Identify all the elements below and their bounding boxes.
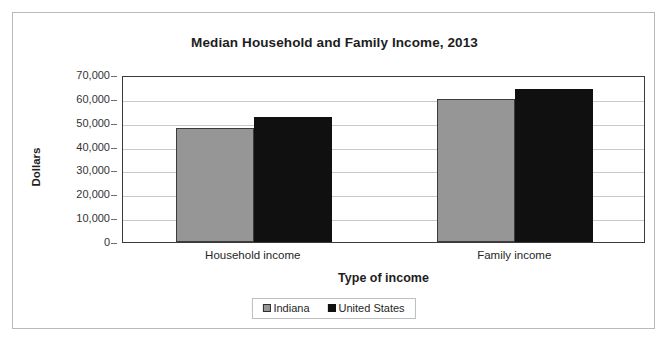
bar-indiana-household-income — [176, 128, 254, 242]
y-tick-mark — [111, 124, 117, 125]
y-tick-mark — [111, 195, 117, 196]
y-tick-mark — [111, 243, 117, 244]
y-tick-label: 40,000 — [44, 142, 110, 153]
y-tick-label: 0 — [44, 237, 110, 248]
y-tick-mark — [111, 219, 117, 220]
x-axis-title: Type of income — [122, 271, 645, 285]
bar-indiana-family-income — [437, 99, 515, 242]
y-tick-mark — [111, 100, 117, 101]
y-tick-label: 30,000 — [44, 165, 110, 176]
bar-united-states-household-income — [254, 117, 332, 242]
legend-swatch-icon — [262, 304, 270, 312]
x-tick-label: Household income — [173, 249, 333, 261]
legend-label: United States — [339, 302, 405, 314]
y-tick-label: 10,000 — [44, 213, 110, 224]
legend-label: Indiana — [273, 302, 309, 314]
y-tick-mark — [111, 148, 117, 149]
legend-swatch-icon — [328, 304, 336, 312]
y-axis-ticks: 010,00020,00030,00040,00050,00060,00070,… — [13, 76, 116, 243]
x-tick-label: Family income — [434, 249, 594, 261]
chart-frame: Median Household and Family Income, 2013… — [12, 12, 655, 329]
legend: IndianaUnited States — [251, 298, 415, 319]
legend-item-united-states[interactable]: United States — [328, 302, 405, 314]
chart-title: Median Household and Family Income, 2013 — [13, 35, 656, 50]
plot-area — [122, 76, 645, 243]
legend-item-indiana[interactable]: Indiana — [262, 302, 309, 314]
y-tick-label: 50,000 — [44, 118, 110, 129]
y-tick-mark — [111, 171, 117, 172]
y-tick-label: 20,000 — [44, 189, 110, 200]
bar-united-states-family-income — [515, 89, 593, 242]
y-tick-mark — [111, 76, 117, 77]
y-tick-label: 60,000 — [44, 94, 110, 105]
y-tick-label: 70,000 — [44, 70, 110, 81]
